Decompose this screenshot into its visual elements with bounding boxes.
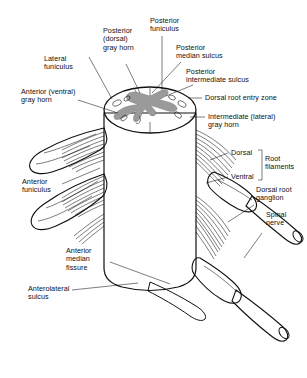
dorsal-root-ganglion-upper (208, 172, 305, 244)
label-anterior-funiculus: Anterior funiculus (22, 178, 51, 195)
spinal-cord-figure: Posterior (dorsal) gray horn Posterior f… (0, 0, 307, 378)
label-posterior-funiculus: Posterior funiculus (150, 17, 179, 34)
label-anterior-ventral-gray-horn: Anterior (ventral) gray horn (21, 88, 75, 105)
label-dorsal: Dorsal (231, 149, 252, 157)
label-posterior-intermediate-sulcus: Posterior intermediate sulcus (186, 68, 249, 85)
dorsal-root-ganglion-lower (192, 258, 291, 341)
label-lateral-funiculus: Lateral funiculus (44, 55, 73, 72)
label-anterolateral-sulcus: Anterolateral sulcus (28, 285, 69, 302)
label-spinal-nerve: Spinal nerve (266, 211, 286, 228)
label-root-filaments: Root filaments (265, 155, 294, 172)
label-anterior-median-fissure: Anterior median fissure (66, 247, 92, 272)
label-posterior-median-sulcus: Posterior median sulcus (176, 44, 223, 61)
label-posterior-dorsal-gray-horn: Posterior (dorsal) gray horn (103, 27, 134, 52)
spinal-cord-cylinder (104, 113, 196, 291)
label-ventral: Ventral (231, 173, 254, 181)
label-dorsal-root-entry-zone: Dorsal root entry zone (205, 94, 277, 102)
label-dorsal-root-ganglion: Dorsal root ganglion (256, 186, 292, 203)
cord-cross-section (104, 87, 196, 133)
label-intermediate-lateral-gray-horn: Intermediate (lateral) gray horn (208, 113, 275, 130)
gray-matter (114, 90, 177, 122)
